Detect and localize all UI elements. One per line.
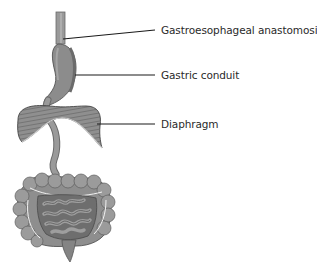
rectum xyxy=(62,240,76,262)
gastric-conduit xyxy=(44,44,76,105)
small-intestine xyxy=(37,195,96,240)
anatomy-illustration xyxy=(0,0,317,268)
anatomy-diagram: Gastroesophageal anastomosis Gastric con… xyxy=(0,0,317,268)
label-diaphragm: Diaphragm xyxy=(161,119,219,130)
label-gastroesophageal-anastomosis: Gastroesophageal anastomosis xyxy=(161,25,317,36)
leader-line-anastomosis xyxy=(63,30,155,39)
label-gastric-conduit: Gastric conduit xyxy=(161,70,239,81)
